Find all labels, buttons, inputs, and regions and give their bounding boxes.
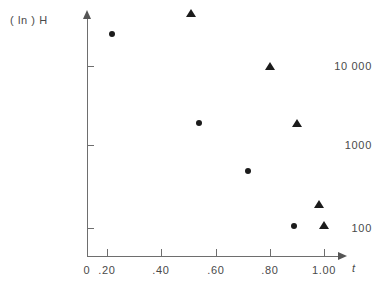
x-axis-line [87, 256, 341, 257]
x-tick-label: .20 [85, 264, 129, 276]
data-point-triangle [186, 9, 196, 17]
x-tick-label: .40 [139, 264, 183, 276]
x-tick-mark [270, 249, 271, 256]
y-tick-mark [87, 228, 94, 229]
data-point-triangle [319, 221, 329, 229]
data-point-triangle [314, 200, 324, 208]
y-axis-title: ( ln ) H [10, 14, 48, 26]
x-axis-arrow-icon [338, 252, 347, 260]
x-tick-mark [216, 249, 217, 256]
y-tick-label: 1000 [316, 139, 372, 151]
scatter-chart: ( ln ) H t 10 000 1000 100 0 .20 .40 .60… [0, 0, 372, 290]
y-tick-label: 10 000 [316, 60, 372, 72]
x-tick-mark [324, 249, 325, 256]
y-axis-arrow-icon [83, 10, 91, 19]
x-tick-mark [161, 249, 162, 256]
y-tick-mark [87, 145, 94, 146]
data-point-circle [109, 31, 115, 37]
data-point-triangle [292, 119, 302, 127]
y-tick-mark [87, 66, 94, 67]
data-point-circle [245, 168, 251, 174]
x-tick-mark [107, 249, 108, 256]
y-axis-line [87, 18, 88, 256]
x-tick-label: .80 [248, 264, 292, 276]
data-point-circle [196, 120, 202, 126]
x-axis-title: t [352, 262, 355, 274]
x-tick-label: 1.00 [302, 264, 346, 276]
data-point-circle [291, 223, 297, 229]
data-point-triangle [265, 62, 275, 70]
x-tick-label: .60 [194, 264, 238, 276]
